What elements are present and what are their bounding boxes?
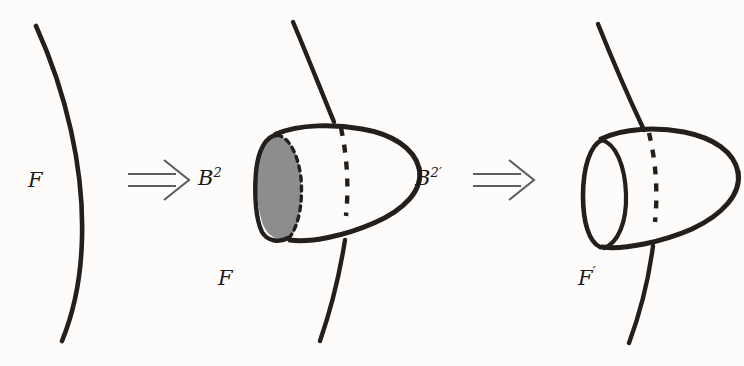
- label-surface-F-prime-base: F: [578, 266, 593, 290]
- ball-prime-outline-bottom: [602, 172, 739, 248]
- surface-arc-F-mid-top: [293, 22, 334, 122]
- label-surface-F-left-base: F: [28, 168, 43, 192]
- ball-outline-bottom: [290, 168, 420, 241]
- implies-arrow-1: [128, 160, 189, 200]
- open-disk-face: [583, 140, 626, 248]
- label-surface-F-left: F: [28, 170, 43, 191]
- label-surface-F-prime-mark: ′: [593, 263, 596, 281]
- label-surface-F-middle-base: F: [218, 266, 233, 290]
- open-disk-left-rim: [583, 140, 602, 247]
- ball-hidden-equator-dashed: [341, 128, 347, 216]
- open-disk-right-rim: [602, 140, 626, 248]
- label-surface-F-middle: F: [218, 268, 233, 289]
- label-ball-B2-prime-superscript: 2: [430, 165, 438, 180]
- implies-arrow-2: [473, 160, 534, 200]
- surface-arc-F-mid-bottom: [320, 240, 345, 341]
- surgery-diagram-figure: F B2 F B2′ F′: [0, 0, 744, 366]
- surface-arc-F-prime-bottom: [629, 246, 653, 343]
- label-ball-B2-prime-mark: ′: [439, 165, 442, 180]
- label-ball-B2: B2: [198, 168, 222, 189]
- surface-arc-F-prime-top: [598, 24, 644, 130]
- diagram-canvas: [0, 0, 744, 366]
- label-ball-B2-base: B: [198, 166, 213, 190]
- panel-ball-open: [583, 24, 739, 343]
- label-surface-F-prime: F′: [578, 268, 596, 289]
- label-ball-B2-superscript: 2: [213, 165, 221, 180]
- panel-ball-attached: [255, 22, 420, 341]
- ball-prime-hidden-equator-dashed: [649, 133, 656, 222]
- shaded-disk-face: [255, 135, 301, 241]
- label-ball-B2-prime: B2′: [415, 168, 442, 189]
- label-ball-B2-prime-base: B: [415, 166, 430, 190]
